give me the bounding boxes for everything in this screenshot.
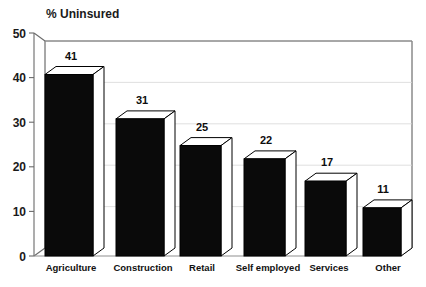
bar-group-retail[interactable]: 25 (180, 121, 232, 256)
bar-side-agriculture (93, 67, 104, 257)
bar-side-services (346, 173, 357, 256)
y-tick-label-20: 20 (13, 160, 27, 174)
bar-group-services[interactable]: 17 (305, 156, 357, 256)
x-label-construction: Construction (113, 262, 172, 273)
y-tick-label-30: 30 (13, 116, 27, 130)
bar-value-label-services: 17 (321, 156, 333, 168)
bar-group-construction[interactable]: 31 (116, 94, 175, 256)
bar-group-self-employed[interactable]: 22 (244, 134, 296, 256)
y-tick-label-40: 40 (13, 71, 27, 85)
y-tick-label-10: 10 (13, 205, 27, 219)
bar-front-self-employed[interactable] (244, 159, 285, 256)
y-axis: 50 40 30 20 10 0 (13, 27, 45, 264)
bar-side-other (401, 200, 412, 256)
bar-value-label-self-employed: 22 (260, 134, 272, 146)
uninsured-bar-chart: 50 40 30 20 10 0 41 31 (0, 0, 426, 287)
x-label-retail: Retail (189, 262, 215, 273)
bar-value-label-agriculture: 41 (65, 50, 77, 62)
bar-front-other[interactable] (363, 208, 401, 256)
y-axis-depth-top (34, 33, 45, 41)
bar-front-retail[interactable] (180, 146, 221, 256)
bar-side-construction (164, 111, 175, 256)
x-label-self-employed: Self employed (236, 262, 301, 273)
x-label-services: Services (309, 262, 348, 273)
chart-title: % Uninsured (46, 7, 119, 21)
y-tick-label-50: 50 (13, 27, 27, 41)
bar-side-retail (221, 138, 232, 256)
x-axis-labels: Agriculture Construction Retail Self emp… (46, 262, 401, 273)
bar-value-label-construction: 31 (136, 94, 148, 106)
bar-front-services[interactable] (305, 181, 346, 256)
bar-front-construction[interactable] (116, 119, 164, 256)
bar-group-other[interactable]: 11 (363, 183, 412, 256)
bar-value-label-retail: 25 (196, 121, 208, 133)
bar-value-label-other: 11 (377, 183, 389, 195)
x-label-agriculture: Agriculture (46, 262, 97, 273)
bar-front-agriculture[interactable] (45, 75, 93, 257)
y-axis-depth-bottom (34, 248, 45, 256)
bar-group-agriculture[interactable]: 41 (45, 50, 104, 256)
y-tick-label-0: 0 (19, 250, 26, 264)
x-label-other: Other (375, 262, 401, 273)
bar-side-self-employed (285, 151, 296, 256)
chart-page: 50 40 30 20 10 0 41 31 (0, 0, 426, 287)
